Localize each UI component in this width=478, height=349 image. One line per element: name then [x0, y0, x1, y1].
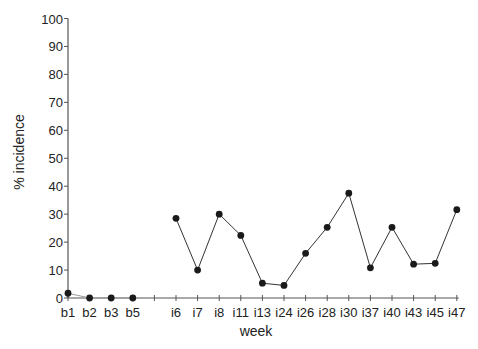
y-tick-label: 70	[49, 95, 63, 110]
x-tick-label: i7	[193, 305, 203, 320]
y-tick-label: 80	[49, 67, 63, 82]
data-point-marker	[281, 282, 288, 289]
data-series	[65, 190, 461, 302]
y-axis: 0102030405060708090100	[41, 12, 68, 307]
y-tick-label: 40	[49, 179, 63, 194]
x-tick-label: b1	[61, 305, 75, 320]
x-tick-label: i47	[448, 305, 465, 320]
y-tick-label: 10	[49, 263, 63, 278]
x-tick-label: b5	[126, 305, 140, 320]
data-point-marker	[173, 215, 180, 222]
x-axis-label: week	[239, 323, 274, 339]
x-tick-label: i6	[171, 305, 181, 320]
data-point-marker	[259, 280, 266, 287]
data-point-marker	[453, 206, 460, 213]
series-line	[176, 193, 457, 285]
data-point-marker	[194, 267, 201, 274]
y-tick-label: 100	[41, 12, 63, 27]
x-axis: b1b2b3b5i6i7i8i11i13i24i26i28i30i37i40i4…	[61, 295, 466, 320]
x-tick-label: b2	[82, 305, 96, 320]
data-point-marker	[389, 224, 396, 231]
y-tick-label: 20	[49, 235, 63, 250]
data-point-marker	[65, 290, 72, 297]
data-point-marker	[324, 224, 331, 231]
data-point-marker	[216, 211, 223, 218]
data-point-marker	[302, 250, 309, 257]
y-tick-label: 60	[49, 123, 63, 138]
x-tick-label: i37	[362, 305, 379, 320]
x-tick-label: b3	[104, 305, 118, 320]
x-tick-label: i40	[383, 305, 400, 320]
data-point-marker	[367, 264, 374, 271]
data-point-marker	[108, 295, 115, 302]
y-tick-label: 90	[49, 39, 63, 54]
y-tick-label: 0	[56, 291, 63, 306]
data-point-marker	[129, 295, 136, 302]
data-point-marker	[86, 295, 93, 302]
x-tick-label: i8	[214, 305, 224, 320]
x-tick-label: i30	[340, 305, 357, 320]
x-tick-label: i11	[233, 305, 249, 320]
x-tick-label: i26	[297, 305, 314, 320]
x-tick-label: i28	[319, 305, 336, 320]
y-axis-label: % incidence	[11, 114, 27, 190]
data-point-marker	[237, 232, 244, 239]
data-point-marker	[345, 190, 352, 197]
data-point-marker	[410, 261, 417, 268]
x-tick-label: i13	[254, 305, 271, 320]
series-line	[68, 293, 133, 298]
y-tick-label: 30	[49, 207, 63, 222]
data-point-marker	[432, 260, 439, 267]
line-chart: 0102030405060708090100 b1b2b3b5i6i7i8i11…	[0, 0, 478, 349]
x-tick-label: i43	[405, 305, 422, 320]
x-tick-label: i24	[275, 305, 292, 320]
x-tick-label: i45	[427, 305, 444, 320]
y-tick-label: 50	[49, 151, 63, 166]
